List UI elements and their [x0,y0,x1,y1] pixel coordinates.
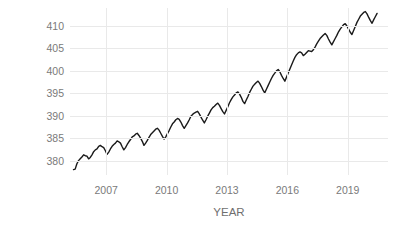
gridline-horizontal-390 [70,116,388,117]
x-tick-label-2019: 2019 [328,185,368,196]
y-tick-label-380: 380 [30,156,64,167]
y-tick-label-395: 395 [30,88,64,99]
gridline-vertical-2013 [227,8,228,175]
gridline-horizontal-405 [70,48,388,49]
y-tick-label-405: 405 [30,43,64,54]
y-tick-label-385: 385 [30,133,64,144]
gridline-horizontal-410 [70,26,388,27]
gridline-horizontal-380 [70,161,388,162]
x-tick-label-2016: 2016 [267,185,307,196]
plot-area [70,8,388,175]
x-tick-label-2013: 2013 [207,185,247,196]
co2-line-series [70,8,388,175]
gridline-vertical-2019 [348,8,349,175]
y-tick-label-400: 400 [30,66,64,77]
gridline-horizontal-385 [70,138,388,139]
y-tick-label-410: 410 [30,21,64,32]
gridline-horizontal-400 [70,71,388,72]
x-axis-title: YEAR [70,206,388,218]
x-tick-label-2007: 2007 [86,185,126,196]
gridline-vertical-2016 [287,8,288,175]
gridline-horizontal-395 [70,93,388,94]
y-tick-label-390: 390 [30,111,64,122]
x-tick-label-2010: 2010 [147,185,187,196]
series-polyline [74,12,378,170]
co2-chart-figure: CO2 (parts per million) 3803853903954004… [0,0,417,232]
gridline-vertical-2007 [106,8,107,175]
gridline-vertical-2010 [167,8,168,175]
